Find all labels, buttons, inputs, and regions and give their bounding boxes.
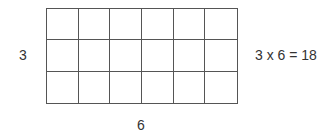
grid-cell bbox=[142, 72, 174, 103]
grid-cell bbox=[205, 40, 237, 71]
grid-cell bbox=[174, 72, 206, 103]
grid-cell bbox=[205, 72, 237, 103]
grid-cell bbox=[142, 40, 174, 71]
area-grid bbox=[46, 8, 238, 104]
grid-cell bbox=[47, 40, 79, 71]
grid-cell bbox=[79, 72, 111, 103]
grid-cell bbox=[142, 9, 174, 40]
grid-cell bbox=[110, 9, 142, 40]
grid-cell bbox=[110, 72, 142, 103]
grid-cell bbox=[47, 9, 79, 40]
grid-cell bbox=[47, 72, 79, 103]
grid-cell bbox=[205, 9, 237, 40]
grid-cell bbox=[110, 40, 142, 71]
grid-cell bbox=[174, 9, 206, 40]
grid-cell bbox=[79, 40, 111, 71]
columns-label: 6 bbox=[137, 117, 145, 133]
rows-label: 3 bbox=[19, 47, 27, 63]
equation-label: 3 x 6 = 18 bbox=[255, 47, 317, 63]
grid-cell bbox=[174, 40, 206, 71]
grid-cell bbox=[79, 9, 111, 40]
